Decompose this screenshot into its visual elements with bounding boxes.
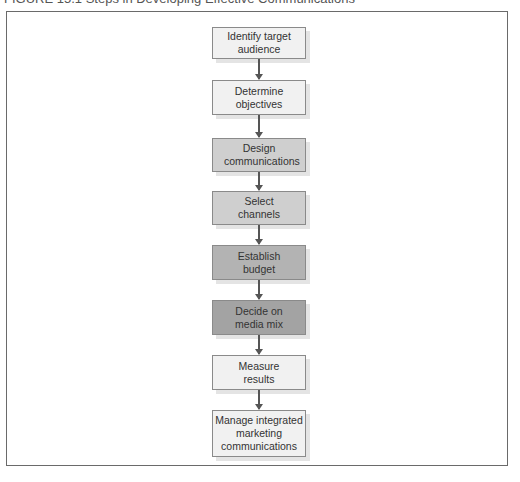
step-select-channels: Select channels [212,191,306,225]
step-manage-imc: Manage integrated marketing communicatio… [212,410,306,457]
step-label: Measure results [234,360,284,386]
figure-caption: FIGURE 15.1 Steps in Developing Effectiv… [4,0,355,6]
step-label: Identify target audience [224,30,294,56]
arrow-down-icon [258,59,260,79]
step-establish-budget: Establish budget [212,245,306,280]
step-label: Manage integrated marketing communicatio… [214,414,304,453]
step-label: Decide on media mix [229,305,289,331]
arrow-down-icon [258,280,260,299]
step-label: Design communications [224,142,294,168]
step-identify-target-audience: Identify target audience [212,27,306,59]
arrow-down-icon [258,115,260,137]
step-measure-results: Measure results [212,355,306,390]
arrow-down-icon [258,335,260,354]
arrow-down-icon [258,390,260,409]
step-decide-media-mix: Decide on media mix [212,300,306,335]
step-label: Establish budget [234,250,284,276]
step-label: Determine objectives [229,85,289,111]
step-determine-objectives: Determine objectives [212,80,306,115]
arrow-down-icon [258,172,260,190]
step-label: Select channels [234,195,284,221]
step-design-communications: Design communications [212,138,306,172]
arrow-down-icon [258,225,260,244]
